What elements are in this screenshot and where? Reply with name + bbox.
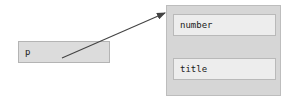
variable-label: p [25,47,30,57]
field-label-title: title [180,64,207,74]
field-box-title[interactable]: title [173,58,276,80]
field-label-number: number [180,20,213,30]
diagram-canvas: p number title [0,0,291,102]
variable-box[interactable]: p [18,41,110,63]
field-box-number[interactable]: number [173,14,276,36]
object-box[interactable]: number title [166,5,281,96]
